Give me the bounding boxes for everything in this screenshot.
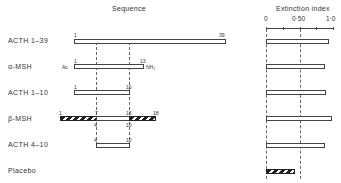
sequence-header: Sequence xyxy=(112,5,146,12)
ext-bar xyxy=(266,39,329,44)
seq-bar xyxy=(74,39,226,44)
zero-line xyxy=(266,29,267,179)
axis-tick xyxy=(316,27,317,30)
hatched-segment xyxy=(60,116,97,121)
half-line xyxy=(300,29,301,179)
row-label: β-MSH xyxy=(8,115,32,122)
tick-10: 1·0 xyxy=(326,15,335,22)
seq-bar xyxy=(96,143,130,148)
ext-bar xyxy=(266,64,325,69)
extinction-header: Extinction index xyxy=(276,5,330,12)
axis-tick xyxy=(333,27,334,30)
seq-bar xyxy=(74,90,130,95)
ext-bar xyxy=(266,90,326,95)
row-label: α-MSH xyxy=(8,63,32,70)
acth-align: 10 xyxy=(126,122,132,128)
hatched-segment xyxy=(129,116,156,121)
tick-0: 0 xyxy=(264,15,268,22)
c-term: NH₂ xyxy=(146,64,155,70)
row-label: ACTH 1–10 xyxy=(8,89,48,96)
seq-start: 1 xyxy=(74,32,77,38)
axis-tick xyxy=(283,27,284,30)
row-label: Placebo xyxy=(8,167,36,174)
ext-bar xyxy=(266,143,325,148)
placebo-bar xyxy=(266,169,295,174)
row-label: ACTH 4–10 xyxy=(8,141,48,148)
n-term: Ac xyxy=(62,64,68,70)
seq-bar xyxy=(74,64,144,69)
acth-align: 4 xyxy=(94,122,97,128)
row-label: ACTH 1–39 xyxy=(8,37,48,44)
seq-bar xyxy=(96,116,130,121)
seq-end: 39 xyxy=(219,32,225,38)
ext-bar xyxy=(266,116,332,121)
tick-050: 0·50 xyxy=(292,15,305,22)
